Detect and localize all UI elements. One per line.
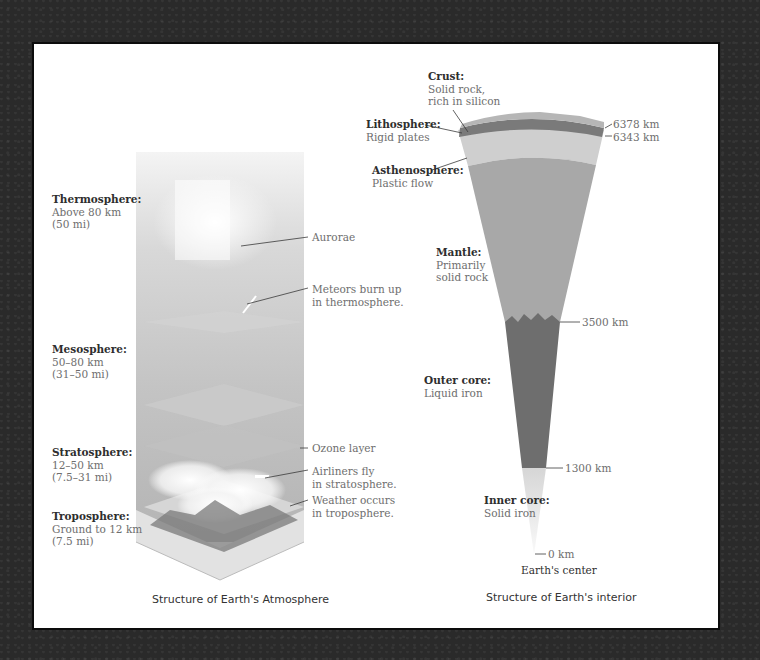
callout-weather: Weather occurs in troposphere. [312, 494, 395, 519]
depth-3500: 3500 km [582, 316, 628, 329]
earth-center-label: Earth's center [521, 564, 597, 577]
depth-1300: 1300 km [565, 462, 611, 475]
callout-airliners: Airliners fly in stratosphere. [312, 465, 397, 490]
depth-0: 0 km [548, 548, 574, 561]
label-crust: Crust: Solid rock, rich in silicon [428, 70, 500, 108]
depth-6343: 6343 km [613, 131, 659, 144]
label-thermosphere: Thermosphere: Above 80 km (50 mi) [52, 193, 141, 231]
atmosphere-column [136, 152, 304, 580]
label-troposphere: Troposphere: Ground to 12 km (7.5 mi) [52, 510, 142, 548]
callout-ozone: Ozone layer [312, 442, 376, 455]
caption-atmosphere: Structure of Earth's Atmosphere [152, 593, 329, 606]
label-mantle: Mantle: Primarily solid rock [436, 246, 488, 284]
label-mesosphere: Mesosphere: 50–80 km (31–50 mi) [52, 343, 127, 381]
label-lithosphere: Lithosphere: Rigid plates [366, 118, 441, 143]
earth-interior-wedge [458, 112, 604, 555]
depth-6378: 6378 km [613, 118, 659, 131]
label-inner-core: Inner core: Solid iron [484, 494, 550, 519]
caption-interior: Structure of Earth's interior [486, 591, 636, 604]
label-asthenosphere: Asthenosphere: Plastic flow [372, 164, 464, 189]
diagrams-artwork [0, 0, 760, 660]
callout-aurorae: Aurorae [312, 231, 355, 244]
label-stratosphere: Stratosphere: 12–50 km (7.5–31 mi) [52, 446, 132, 484]
callout-meteors: Meteors burn up in thermosphere. [312, 283, 404, 308]
label-outer-core: Outer core: Liquid iron [424, 374, 491, 399]
